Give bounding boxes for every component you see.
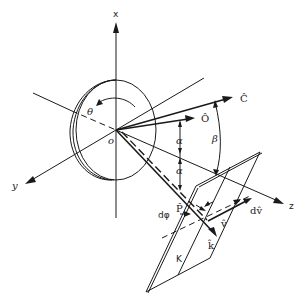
vector-geometry-diagram: x z y θ o Ĉ Ô [0,0,305,303]
y-axis-label: y [11,180,18,191]
plane-K-label: K [176,254,183,264]
z-axis-label: z [289,201,294,211]
x-axis-label: x [113,9,119,19]
alpha-lower-label: α [176,165,183,176]
vector-P-label: P̂ [176,203,183,214]
theta-rotation: θ [87,98,135,117]
beta-angle-marker: β [211,100,220,176]
vector-P-k: P̂ k̂ [116,130,217,251]
z-axis-arrowhead-icon [273,197,284,204]
rotating-disk [70,80,156,180]
beta-label: β [211,133,218,144]
vector-C-arrowhead-icon [222,96,233,103]
y-axis-arrowhead-icon [25,176,36,184]
dphi-label: dφ [158,210,170,220]
alpha-angle-markers: α α [176,120,183,191]
origin-label: o [108,135,114,146]
theta-label: θ [87,106,93,117]
vector-dv-label: dv̂ [250,205,262,216]
z-axis: z [33,93,294,211]
vector-O-label: Ô [201,113,209,124]
x-axis-arrowhead-icon [113,22,119,33]
alpha-upper-label: α [176,135,183,146]
x-axis: x [113,9,119,218]
vector-v: v̂ dv̂ [208,198,262,229]
vector-C: Ĉ [116,93,248,130]
vector-C-label: Ĉ [240,93,248,104]
rotation-arrowhead-icon [96,99,103,106]
vector-v-label: v̂ [220,218,227,229]
vector-O-arrowhead-icon [185,115,195,122]
